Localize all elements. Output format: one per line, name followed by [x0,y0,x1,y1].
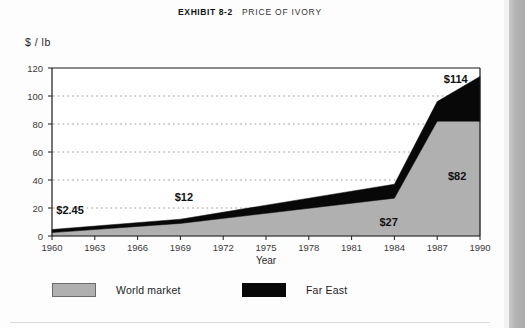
annotation-12: $12 [175,191,193,203]
legend-swatch-world-market [52,283,96,297]
chart-legend: World market Far East [0,283,500,309]
x-axis-title: Year [256,255,277,266]
y-tick-label-0: 0 [38,231,43,242]
x-tick-label-1975: 1975 [255,242,276,253]
x-tick-label-1984: 1984 [384,242,405,253]
legend-item-far-east: Far East [242,283,347,297]
scan-page-edge [509,0,525,328]
y-tick-label-80: 80 [32,119,43,130]
annotation-82: $82 [448,170,466,182]
y-axis-ticks: 020406080100120 [27,63,52,242]
y-tick-label-40: 40 [32,175,43,186]
legend-item-world-market: World market [52,283,181,297]
x-tick-label-1972: 1972 [213,242,234,253]
legend-label-far-east: Far East [306,284,347,296]
legend-label-world-market: World market [116,284,181,296]
x-tick-label-1981: 1981 [341,242,362,253]
annotation-114: $114 [444,73,469,85]
x-tick-label-1960: 1960 [41,242,62,253]
y-tick-label-100: 100 [27,91,43,102]
x-tick-label-1969: 1969 [170,242,191,253]
page-bottom-rule [10,322,490,323]
annotation-27: $27 [380,216,398,228]
x-tick-label-1990: 1990 [469,242,490,253]
exhibit-page: EXHIBIT 8-2PRICE OF IVORY $ / lb 0204060… [0,0,525,328]
y-tick-label-60: 60 [32,147,43,158]
x-tick-label-1963: 1963 [84,242,105,253]
y-tick-label-20: 20 [32,203,43,214]
legend-swatch-far-east [242,283,286,297]
y-tick-label-120: 120 [27,63,43,74]
x-tick-label-1966: 1966 [127,242,148,253]
annotation-245: $2.45 [56,204,84,216]
x-tick-label-1978: 1978 [298,242,319,253]
ivory-price-area-chart: 020406080100120 196019631966196919721975… [0,0,500,285]
x-tick-label-1987: 1987 [427,242,448,253]
x-axis-ticks: 1960196319661969197219751978198119841987… [41,236,490,253]
